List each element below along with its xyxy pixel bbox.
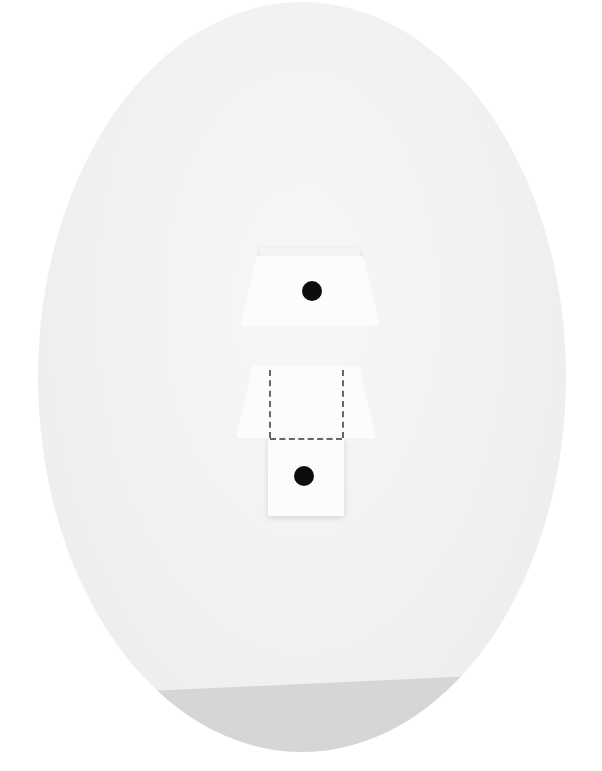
top-folded-piece [240, 248, 380, 328]
fold-line-bottom [270, 438, 342, 440]
bottom-unfolded-piece [236, 366, 376, 518]
bottom-piece-dot [294, 466, 314, 486]
fold-line-right [342, 370, 344, 438]
fold-line-left [269, 370, 271, 438]
table-shadow [38, 672, 566, 752]
top-piece-dot [302, 281, 322, 301]
bottom-piece-top-section [236, 366, 376, 438]
